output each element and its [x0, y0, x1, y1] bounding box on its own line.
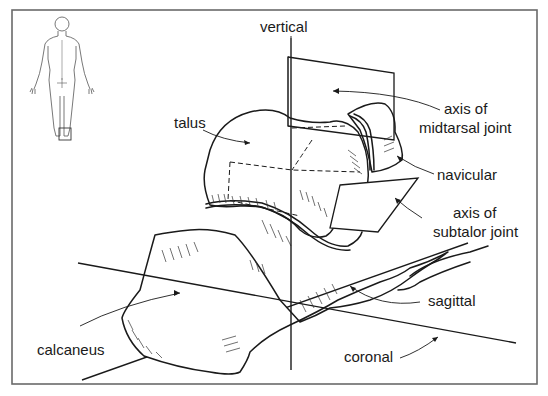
label-navicular: navicular	[437, 166, 497, 183]
label-talus: talus	[174, 114, 206, 131]
inset-body-figure	[30, 17, 94, 140]
label-calcaneus: calcaneus	[37, 341, 105, 358]
label-midtarsal-axis-line1: axis of	[444, 100, 488, 117]
subtalar-axis-plane	[330, 178, 418, 232]
label-subtalar-axis-line1: axis of	[453, 204, 497, 221]
label-sagittal: sagittal	[428, 292, 476, 309]
midtarsal-axis-plane	[288, 57, 394, 140]
label-vertical: vertical	[260, 18, 308, 35]
label-midtarsal-axis-line2: midtarsal joint	[419, 119, 512, 136]
label-coronal: coronal	[344, 348, 393, 365]
label-subtalar-axis-line2: subtalor joint	[433, 223, 519, 240]
foot-axes-diagram: vertical talus axis of midtarsal joint n…	[0, 0, 548, 396]
